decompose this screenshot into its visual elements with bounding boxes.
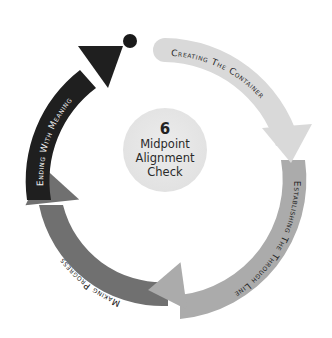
center-title-line-1: Midpoint [140, 137, 190, 151]
center-circle: 6 Midpoint Alignment Check [123, 108, 207, 192]
step-number: 6 [160, 121, 170, 137]
center-title-line-2: Alignment [136, 151, 195, 165]
start-dot [123, 34, 137, 48]
center-title-line-3: Check [147, 165, 182, 179]
cycle-diagram: Creating The Container Establishing The … [0, 0, 332, 338]
